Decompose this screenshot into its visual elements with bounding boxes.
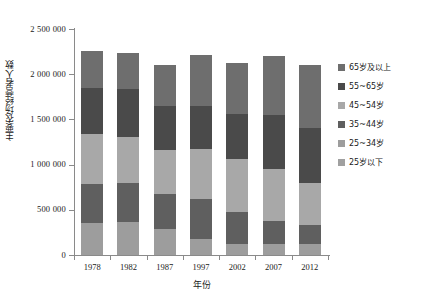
x-axis-tick bbox=[219, 255, 220, 260]
bar-segment bbox=[299, 183, 321, 225]
bar-segment bbox=[263, 221, 285, 245]
bar-stack bbox=[226, 63, 248, 255]
bar-segment bbox=[226, 212, 248, 244]
bar-stack bbox=[81, 51, 103, 255]
bar-segment bbox=[263, 56, 285, 115]
bar-segment bbox=[263, 115, 285, 168]
y-axis-tick-label: 500 000 bbox=[37, 205, 66, 214]
legend-swatch-icon bbox=[338, 159, 345, 166]
x-axis-tick bbox=[183, 255, 184, 260]
bar-segment bbox=[299, 225, 321, 244]
stacked-bar-chart: 0500 0001 000 0001 500 0002 000 0002 500… bbox=[0, 0, 421, 302]
legend-item-label: 25岁以下 bbox=[349, 158, 383, 167]
legend-item[interactable]: 65岁及以上 bbox=[338, 58, 418, 77]
chart-legend: 65岁及以上55~65岁45~54岁35~44岁25~34岁25岁以下 bbox=[338, 58, 418, 172]
x-axis-title: 年份 bbox=[74, 278, 330, 291]
legend-item-label: 55~65岁 bbox=[349, 82, 384, 91]
bar-segment bbox=[117, 183, 139, 222]
legend-swatch-icon bbox=[338, 140, 345, 147]
legend-item[interactable]: 25~34岁 bbox=[338, 134, 418, 153]
bar-segment bbox=[190, 55, 212, 107]
x-axis-tick-label: 2012 bbox=[287, 262, 333, 272]
legend-item-label: 45~54岁 bbox=[349, 101, 384, 110]
bar-segment bbox=[299, 65, 321, 129]
y-axis-tick-label: 1 500 000 bbox=[30, 115, 66, 124]
legend-item-label: 65岁及以上 bbox=[349, 63, 391, 72]
x-axis-tick bbox=[110, 255, 111, 260]
x-axis-tick bbox=[74, 255, 75, 260]
bar-segment bbox=[190, 149, 212, 200]
legend-item[interactable]: 35~44岁 bbox=[338, 115, 418, 134]
bar-segment bbox=[154, 106, 176, 149]
legend-swatch-icon bbox=[338, 121, 345, 128]
bar-segment bbox=[263, 244, 285, 255]
bar-segment bbox=[299, 244, 321, 255]
bar-segment bbox=[226, 159, 248, 211]
bar-stack bbox=[190, 55, 212, 255]
legend-item-label: 35~44岁 bbox=[349, 120, 384, 129]
bar-stack bbox=[263, 56, 285, 255]
bar-segment bbox=[117, 222, 139, 255]
bar-segment bbox=[154, 150, 176, 194]
y-axis-tick-label: 2 500 000 bbox=[30, 25, 66, 34]
bar-segment bbox=[81, 88, 103, 134]
bar-segment bbox=[154, 229, 176, 255]
bar-stack bbox=[154, 65, 176, 255]
legend-swatch-icon bbox=[338, 102, 345, 109]
bar-segment bbox=[190, 106, 212, 148]
bar-segment bbox=[117, 137, 139, 183]
bar-segment bbox=[81, 184, 103, 223]
legend-swatch-icon bbox=[338, 64, 345, 71]
bar-segment bbox=[154, 194, 176, 230]
legend-item[interactable]: 55~65岁 bbox=[338, 77, 418, 96]
legend-item[interactable]: 45~54岁 bbox=[338, 96, 418, 115]
bar-segment bbox=[81, 51, 103, 88]
y-axis-title: 主要农场经营者人数 bbox=[4, 60, 16, 141]
plot-area bbox=[74, 29, 328, 255]
bar-segment bbox=[81, 134, 103, 184]
bar-segment bbox=[299, 128, 321, 182]
bar-segment bbox=[117, 53, 139, 89]
y-axis-tick-label: 2 000 000 bbox=[30, 70, 66, 79]
bar-segment bbox=[190, 199, 212, 238]
bar-segment bbox=[226, 63, 248, 114]
legend-swatch-icon bbox=[338, 83, 345, 90]
x-axis-tick bbox=[292, 255, 293, 260]
legend-item-label: 25~34岁 bbox=[349, 139, 384, 148]
bar-segment bbox=[226, 244, 248, 255]
y-axis-tick-label: 0 bbox=[62, 251, 66, 260]
bar-segment bbox=[190, 239, 212, 255]
bar-segment bbox=[117, 89, 139, 137]
bar-segment bbox=[81, 223, 103, 255]
bar-segment bbox=[226, 114, 248, 159]
bar-segment bbox=[154, 65, 176, 106]
bar-stack bbox=[299, 65, 321, 255]
x-axis-tick bbox=[328, 255, 329, 260]
x-axis-tick bbox=[147, 255, 148, 260]
legend-item[interactable]: 25岁以下 bbox=[338, 153, 418, 172]
y-axis-tick-label: 1 000 000 bbox=[30, 160, 66, 169]
x-axis-tick bbox=[255, 255, 256, 260]
bar-stack bbox=[117, 53, 139, 255]
bar-segment bbox=[263, 169, 285, 221]
